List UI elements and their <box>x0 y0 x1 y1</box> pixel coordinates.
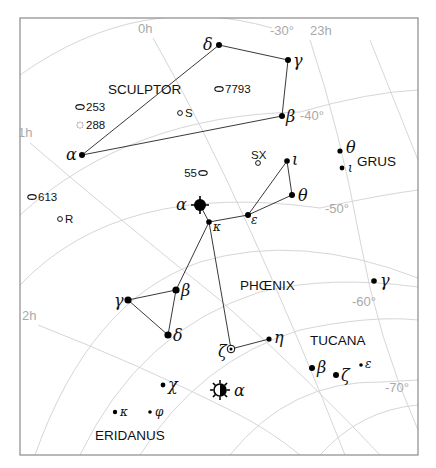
constellation-name-phœnix: PHŒNIX <box>240 278 295 293</box>
variable-star-icon <box>256 161 261 166</box>
star-label: φ <box>155 405 164 419</box>
star-label: κ <box>212 220 221 234</box>
star-phe-gamma: γ <box>114 291 132 310</box>
star-dot-icon <box>371 278 377 284</box>
galaxy-icon <box>199 171 207 176</box>
constellation-line <box>209 222 231 349</box>
star-label: δ <box>173 326 183 345</box>
star-label: ε <box>365 357 371 371</box>
ra-line-22h <box>370 40 418 160</box>
dec-arc-50 <box>20 190 418 285</box>
deep-sky-label: R <box>65 213 73 225</box>
star-dot-icon <box>216 42 222 48</box>
star-label: β <box>285 107 295 126</box>
star-dot-icon <box>285 57 291 63</box>
deep-sky-label: S <box>185 107 193 119</box>
star-dot-icon <box>340 166 345 171</box>
deep-sky-object-s: S <box>178 107 193 119</box>
deep-sky-label: 288 <box>86 119 105 131</box>
deep-sky-label: 613 <box>38 191 57 203</box>
ra-line-0h <box>153 38 345 455</box>
galaxy-icon <box>215 87 223 92</box>
ra-line-1h <box>30 143 380 455</box>
star-scl-alpha: α <box>66 145 85 164</box>
star-label: ι <box>348 161 353 175</box>
grid-label: 0h <box>138 21 152 36</box>
star-label: β <box>180 281 190 300</box>
deep-sky-label: SX <box>251 149 267 161</box>
deep-sky-object-r: R <box>58 213 74 225</box>
star-phe-epsilon: ε <box>245 212 257 227</box>
deep-sky-label: 253 <box>86 101 105 113</box>
star-dot-icon <box>148 410 152 414</box>
constellation-line <box>128 290 176 300</box>
galaxy-icon <box>76 105 84 110</box>
constellation-names: SCULPTORPHŒNIXTUCANAGRUSERIDANUS <box>95 82 396 443</box>
star-phe-delta: δ <box>164 326 182 345</box>
star-dot-icon <box>279 113 285 119</box>
star-label: θ <box>346 138 356 157</box>
star-tuc-epsilon: ε <box>359 357 371 371</box>
deep-sky-object-sx: SX <box>251 149 267 165</box>
constellation-name-sculptor: SCULPTOR <box>108 82 182 97</box>
variable-star-icon <box>58 217 63 222</box>
star-scl-delta: δ <box>203 35 222 54</box>
grid-label: -30° <box>270 23 294 38</box>
star-dot-icon <box>266 336 271 341</box>
grid-label: -50° <box>325 201 349 216</box>
star-label: ε <box>251 213 257 227</box>
star-gru-gamma: γ <box>371 271 390 290</box>
grid-label: -60° <box>352 294 376 309</box>
variable-star-icon <box>178 111 183 116</box>
star-label: γ <box>114 291 124 310</box>
constellation-line <box>176 222 209 290</box>
star-phe-alpha: α <box>176 195 209 214</box>
star-label: α <box>176 195 187 214</box>
star-label: χ <box>167 375 179 394</box>
star-dot-icon <box>289 192 295 198</box>
star-tuc-zeta: ζ <box>333 366 351 385</box>
grid-label: 23h <box>310 23 332 38</box>
deep-sky-object-613: 613 <box>28 191 57 203</box>
star-label: θ <box>298 186 308 205</box>
star-tuc-beta: β <box>309 358 326 377</box>
deep-sky-objects: 7793253288SSX55613R <box>28 83 267 225</box>
constellation-name-grus: GRUS <box>357 154 396 169</box>
deep-sky-object-55: 55 <box>184 167 207 179</box>
constellation-name-eridanus: ERIDANUS <box>95 428 165 443</box>
star-phe-iota: ι <box>284 150 298 169</box>
star-label: γ <box>293 51 303 70</box>
star-dot-icon <box>206 219 212 225</box>
deep-sky-label: 7793 <box>225 83 251 95</box>
star-dot-icon <box>309 365 315 371</box>
deep-sky-object-288: 288 <box>76 119 105 131</box>
star-scl-beta: β <box>279 107 295 126</box>
constellation-line <box>219 45 288 60</box>
galaxy-icon <box>28 195 36 200</box>
star-dot-icon <box>164 331 171 338</box>
star-chart: 0h23h1h2h-30°-40°-50°-60°-70° 7793253288… <box>0 0 436 468</box>
constellation-line <box>248 195 292 215</box>
star-label: α <box>66 145 77 164</box>
star-dot-icon <box>172 286 179 293</box>
star-eri-alpha: α <box>210 380 245 400</box>
dec-arc-40 <box>20 90 418 215</box>
globular-cluster-icon <box>76 121 83 128</box>
grid-label: -40° <box>300 108 324 123</box>
star-scl-gamma: γ <box>285 51 303 70</box>
constellation-line <box>82 45 219 155</box>
star-label: ζ <box>218 342 228 361</box>
star-label: α <box>234 381 245 400</box>
star-label: δ <box>203 35 213 54</box>
constellation-line <box>248 161 287 215</box>
star-phe-theta: θ <box>289 186 308 205</box>
star-label: γ <box>380 271 390 290</box>
grid-label: -70° <box>385 380 409 395</box>
star-dot-icon <box>333 372 339 378</box>
deep-sky-object-253: 253 <box>76 101 105 113</box>
star-dot-icon <box>337 148 342 153</box>
star-dot-icon <box>113 410 117 414</box>
star-dot-icon <box>359 363 363 367</box>
star-label: η <box>274 328 284 347</box>
star-dot-icon <box>124 296 131 303</box>
